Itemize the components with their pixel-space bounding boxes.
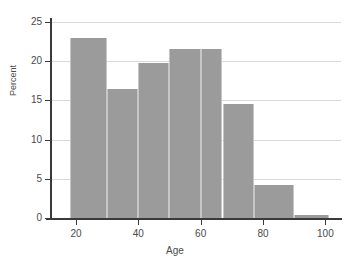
plot-area [51, 22, 341, 218]
y-tick-label: 10 [16, 135, 42, 145]
x-tick-label: 40 [123, 228, 153, 239]
x-axis-label: Age [0, 245, 350, 256]
y-tick-label: 5 [16, 174, 42, 184]
y-tick-mark [45, 100, 51, 101]
x-axis-line [46, 218, 342, 220]
histogram-bar [201, 49, 223, 218]
histogram-bar [169, 49, 200, 218]
histogram-bar [107, 89, 138, 218]
y-tick-label: 0 [16, 213, 42, 223]
histogram-bar [254, 185, 295, 218]
histogram-chart: 0510152025 20406080100 Percent Age [0, 0, 350, 266]
chart-figure: 0510152025 20406080100 Percent Age [0, 0, 350, 266]
x-tick-label: 80 [248, 228, 278, 239]
histogram-bar [70, 38, 107, 218]
y-tick-label: 25 [16, 17, 42, 27]
y-tick-mark [45, 22, 51, 23]
x-tick-label: 20 [61, 228, 91, 239]
y-tick-label: 15 [16, 95, 42, 105]
x-tick-mark [325, 220, 326, 225]
x-tick-mark [76, 220, 77, 225]
x-tick-mark [201, 220, 202, 225]
y-axis-label: Percent [8, 65, 18, 96]
x-tick-label: 60 [186, 228, 216, 239]
x-tick-mark [263, 220, 264, 225]
x-tick-mark [138, 220, 139, 225]
y-tick-mark [45, 140, 51, 141]
y-axis-line [50, 18, 52, 220]
x-tick-label: 100 [310, 228, 340, 239]
y-tick-mark [45, 61, 51, 62]
histogram-bar [138, 63, 169, 218]
y-tick-mark [45, 218, 51, 219]
y-tick-label: 20 [16, 56, 42, 66]
gridline [51, 22, 341, 23]
y-tick-mark [45, 179, 51, 180]
histogram-bar [223, 104, 254, 218]
